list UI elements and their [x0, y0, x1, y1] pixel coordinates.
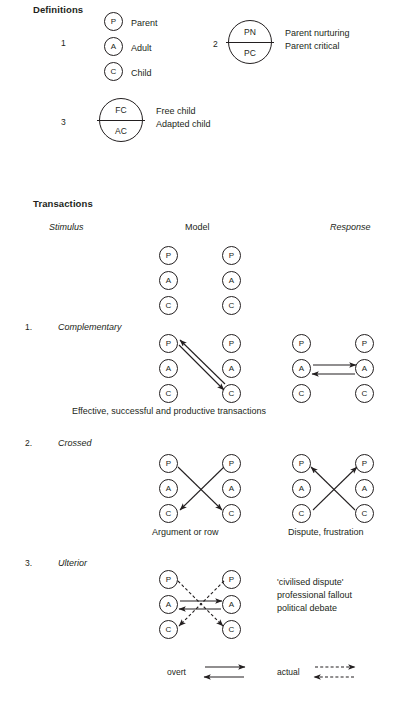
transaction-label-crossed: Crossed: [58, 438, 92, 448]
complementary-left-state-a: A: [159, 359, 178, 378]
definition-label-free-child: Free child: [156, 105, 196, 118]
ulterior-right-state-p: P: [222, 570, 241, 589]
ulterior-left-state-a: A: [159, 595, 178, 614]
crossed-left-caption: Argument or row: [152, 527, 219, 537]
definition-label-parent: Parent: [131, 17, 158, 30]
complementary-right-state-a: A: [222, 359, 241, 378]
split-circle-parent-top-code: PN: [229, 21, 271, 42]
definition-label-adult: Adult: [131, 42, 152, 55]
crossed-resp-left-state-a: A: [292, 479, 311, 498]
definitions-group-number-2: 2: [213, 39, 218, 49]
complementary-left-state-p: P: [159, 334, 178, 353]
complementary-model-arrows: [179, 340, 225, 390]
complementary-right-state-c: C: [222, 384, 241, 403]
transaction-label-ulterior: Ulterior: [58, 558, 87, 568]
model-left-state-c: C: [159, 296, 178, 315]
arrow-overlay: [0, 0, 411, 714]
definition-label-child: Child: [131, 67, 152, 80]
ulterior-right-state-c: C: [222, 620, 241, 639]
ulterior-left-state-p: P: [159, 570, 178, 589]
crossed-right-state-a: A: [222, 479, 241, 498]
crossed-left-state-c: C: [159, 504, 178, 523]
complementary-resp-right-state-p: P: [355, 334, 374, 353]
ego-circle-parent: P: [104, 12, 123, 31]
crossed-right-state-c: C: [222, 504, 241, 523]
definition-label-parent-nurturing: Parent nurturing: [285, 27, 350, 40]
crossed-model-arrows: [178, 467, 224, 510]
transaction-number-3: 3.: [25, 558, 32, 568]
split-circle-child-divider: [97, 120, 145, 121]
crossed-resp-left-state-c: C: [292, 504, 311, 523]
complementary-resp-left-state-a: A: [292, 359, 311, 378]
column-header-model: Model: [185, 222, 210, 232]
transaction-number-2: 2.: [25, 438, 32, 448]
complementary-resp-right-state-a: A: [355, 359, 374, 378]
ulterior-outcome-2: professional fallout: [277, 589, 352, 602]
complementary-resp-right-state-c: C: [355, 384, 374, 403]
ego-circle-adult: A: [104, 37, 123, 56]
complementary-caption: Effective, successful and productive tra…: [72, 406, 266, 416]
transaction-number-1: 1.: [25, 322, 32, 332]
ego-circle-child: C: [104, 62, 123, 81]
crossed-response-arrows: [311, 467, 357, 510]
column-header-response: Response: [330, 222, 371, 232]
ulterior-outcome-1: 'civilised dispute': [277, 576, 343, 589]
split-circle-child-top-code: FC: [100, 99, 142, 120]
ulterior-left-state-c: C: [159, 620, 178, 639]
model-left-state-p: P: [159, 246, 178, 265]
ulterior-overt-arrows: [179, 601, 222, 609]
complementary-resp-left-state-c: C: [292, 384, 311, 403]
ulterior-right-state-a: A: [222, 595, 241, 614]
split-circle-parent-divider: [226, 42, 274, 43]
complementary-response-arrows: [312, 365, 356, 374]
legend-label-overt: overt: [167, 667, 186, 677]
legend-label-actual: actual: [277, 667, 300, 677]
crossed-resp-right-state-a: A: [355, 479, 374, 498]
definitions-heading: Definitions: [33, 4, 83, 15]
complementary-left-state-c: C: [159, 384, 178, 403]
definition-label-parent-critical: Parent critical: [285, 40, 340, 53]
crossed-resp-left-state-p: P: [292, 454, 311, 473]
crossed-left-state-p: P: [159, 454, 178, 473]
legend-actual-arrows: [314, 667, 355, 677]
definitions-group-number-3: 3: [61, 117, 66, 127]
complementary-resp-left-state-p: P: [292, 334, 311, 353]
model-right-state-a: A: [222, 271, 241, 290]
crossed-left-state-a: A: [159, 479, 178, 498]
crossed-right-state-p: P: [222, 454, 241, 473]
split-circle-child-bottom-code: AC: [100, 120, 142, 141]
definition-label-adapted-child: Adapted child: [156, 118, 211, 131]
transactions-heading: Transactions: [33, 198, 93, 209]
ulterior-outcome-3: political debate: [277, 602, 337, 615]
ulterior-actual-arrows: [178, 581, 224, 626]
model-left-state-a: A: [159, 271, 178, 290]
complementary-right-state-p: P: [222, 334, 241, 353]
transaction-label-complementary: Complementary: [58, 322, 122, 332]
split-circle-parent-bottom-code: PC: [229, 42, 271, 63]
crossed-resp-right-state-p: P: [355, 454, 374, 473]
model-right-state-c: C: [222, 296, 241, 315]
column-header-stimulus: Stimulus: [49, 222, 84, 232]
definitions-group-number-1: 1: [61, 38, 66, 48]
legend-overt-arrows: [204, 667, 245, 677]
crossed-right-caption: Dispute, frustration: [288, 527, 364, 537]
crossed-resp-right-state-c: C: [355, 504, 374, 523]
model-right-state-p: P: [222, 246, 241, 265]
